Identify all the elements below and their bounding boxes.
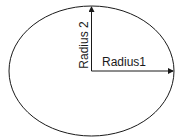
ellipse-diagram: Radius 2 Radius1 xyxy=(0,0,177,139)
radius-horizontal-label: Radius1 xyxy=(102,55,146,69)
radius-vertical-label: Radius 2 xyxy=(77,21,91,69)
